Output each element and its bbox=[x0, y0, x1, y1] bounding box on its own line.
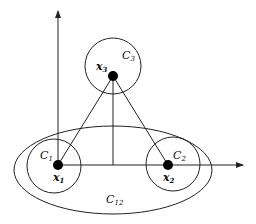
point-x3 bbox=[108, 71, 118, 81]
point-x2 bbox=[163, 160, 173, 170]
label-c2: C2 bbox=[173, 149, 186, 163]
label-x3: x3 bbox=[95, 60, 108, 74]
diagram-canvas: x3 C3 C1 x1 C2 x2 C12 bbox=[0, 0, 256, 224]
label-c1: C1 bbox=[40, 149, 53, 163]
label-x1: x1 bbox=[52, 171, 64, 185]
point-x1 bbox=[53, 160, 63, 170]
edge-x3-x1 bbox=[58, 76, 113, 165]
label-x2: x2 bbox=[162, 171, 175, 185]
label-c12: C12 bbox=[106, 193, 124, 207]
label-c3: C3 bbox=[122, 49, 135, 63]
edge-x3-x2 bbox=[113, 76, 168, 165]
